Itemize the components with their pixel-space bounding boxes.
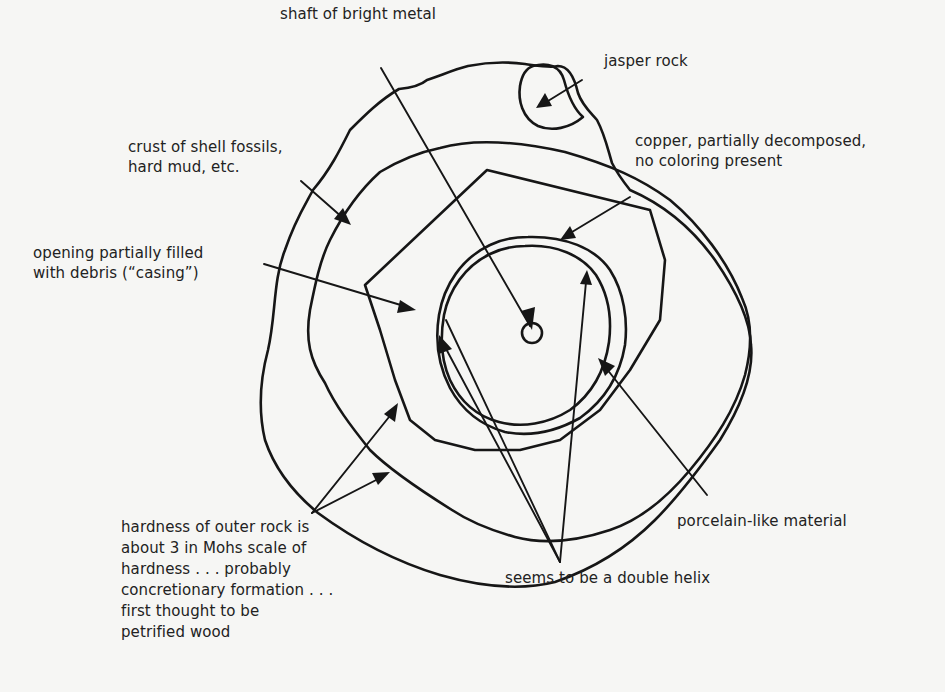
label-jasper-rock: jasper rock	[604, 51, 688, 71]
helix-inner-ring	[442, 246, 610, 425]
label-shaft-of-bright-metal: shaft of bright metal	[280, 4, 436, 24]
helix-arrow-line-1	[444, 345, 560, 562]
helix-arrow-line-3	[446, 320, 560, 562]
label-opening: opening partially filled with debris (“c…	[33, 243, 203, 283]
hardness-arrowhead-2	[372, 472, 390, 485]
hardness-arrow-line-2	[312, 478, 380, 513]
rock-cross-section-diagram: shaft of bright metal jasper rock crust …	[0, 0, 945, 692]
label-double-helix: seems to be a double helix	[505, 568, 710, 588]
opening-arrow-line	[264, 264, 404, 306]
copper-arrowhead	[560, 226, 576, 240]
label-copper: copper, partially decomposed, no colorin…	[635, 131, 866, 171]
porcelain-arrow-line	[606, 368, 707, 495]
copper-arrow-line	[572, 197, 630, 232]
label-porcelain: porcelain-like material	[677, 511, 847, 531]
helix-arrowhead-1	[439, 335, 452, 354]
label-crust: crust of shell fossils, hard mud, etc.	[128, 137, 283, 177]
opening-arrowhead	[397, 300, 416, 313]
jasper-inclusion	[520, 65, 583, 129]
label-hardness: hardness of outer rock is about 3 in Moh…	[121, 517, 333, 643]
helix-arrowhead-2	[580, 270, 592, 285]
